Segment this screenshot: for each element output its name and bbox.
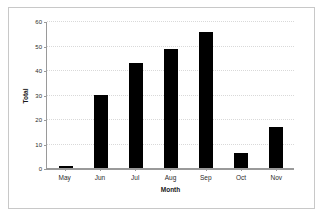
plot-wrap: 0102030405060 MayJunJulAugSepOctNov Mont… — [46, 22, 294, 170]
x-axis-tick-mark — [100, 168, 101, 171]
y-axis-tick-label: 60 — [35, 19, 42, 25]
y-axis-tick-label: 30 — [35, 93, 42, 99]
bar[interactable] — [129, 63, 143, 168]
bar[interactable] — [199, 32, 213, 168]
chart-frame: 0102030405060 MayJunJulAugSepOctNov Mont… — [8, 7, 315, 209]
x-axis-title: Month — [47, 187, 294, 194]
y-axis-tick-mark — [44, 71, 47, 72]
y-axis-tick-mark — [44, 22, 47, 23]
bar[interactable] — [234, 153, 248, 168]
y-axis-tick-label: 0 — [39, 166, 42, 172]
y-axis-tick-label: 20 — [35, 117, 42, 123]
bar-slot — [153, 22, 188, 168]
y-axis-tick-mark — [44, 96, 47, 97]
plot-area: 0102030405060 — [46, 22, 294, 170]
y-axis-tick-mark — [44, 169, 47, 170]
x-axis-tick-label: Nov — [259, 175, 294, 182]
y-axis-tick-mark — [44, 145, 47, 146]
bar-slot — [118, 22, 153, 168]
bar[interactable] — [94, 95, 108, 168]
y-axis-tick-label: 10 — [35, 142, 42, 148]
x-axis-tick-mark — [241, 168, 242, 171]
bar-slot — [83, 22, 118, 168]
y-axis-tick-mark — [44, 120, 47, 121]
x-axis-tick-label: Sep — [188, 175, 223, 182]
y-axis-tick-label: 50 — [35, 44, 42, 50]
x-axis-tick-label: Aug — [153, 175, 188, 182]
bar-slot — [259, 22, 294, 168]
bar[interactable] — [164, 49, 178, 168]
x-axis-tick-mark — [135, 168, 136, 171]
x-axis-tick-labels: MayJunJulAugSepOctNov — [47, 175, 294, 182]
bar-slot — [189, 22, 224, 168]
x-axis-tick-label: Jul — [118, 175, 153, 182]
x-axis-tick-label: Jun — [82, 175, 117, 182]
bar-slot — [48, 22, 83, 168]
y-axis-tick-label: 40 — [35, 68, 42, 74]
bar-slot — [224, 22, 259, 168]
y-axis-title: Total — [23, 88, 30, 103]
x-axis-tick-mark — [65, 168, 66, 171]
bars-group — [48, 22, 294, 168]
x-axis-tick-label: May — [47, 175, 82, 182]
x-axis-tick-label: Oct — [223, 175, 258, 182]
bar[interactable] — [269, 127, 283, 168]
x-axis-tick-mark — [276, 168, 277, 171]
y-axis-tick-mark — [44, 47, 47, 48]
x-axis-tick-mark — [170, 168, 171, 171]
x-axis-tick-mark — [206, 168, 207, 171]
